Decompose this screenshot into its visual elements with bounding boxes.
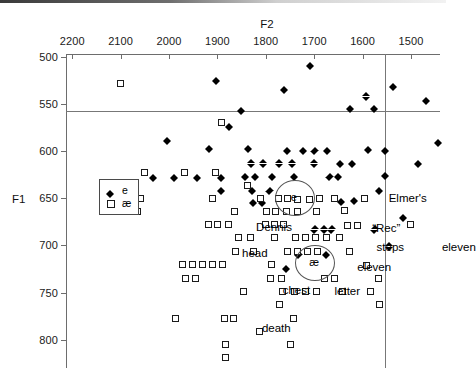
data-point-e (328, 221, 336, 229)
annotation-label: “Rec” (372, 222, 400, 234)
data-point-ae (292, 234, 299, 241)
data-point-ae (276, 301, 283, 308)
data-point-e (241, 169, 249, 177)
x-axis-tick-label: 1900 (205, 35, 230, 47)
data-point-e (299, 143, 307, 151)
data-point-ae (212, 169, 219, 176)
legend-item-label: æ (122, 198, 131, 209)
data-point-e (326, 169, 334, 177)
annotation-label: eleven (357, 261, 391, 273)
data-point-ae (287, 341, 294, 348)
y-axis-tick-label: 800 (26, 334, 58, 346)
data-point-e (268, 169, 276, 177)
cluster-label-e: e (291, 191, 297, 203)
y-axis-tick (61, 245, 66, 246)
data-point-e (364, 142, 372, 150)
y-axis-tick-label: 650 (26, 192, 58, 204)
data-point-ae (341, 207, 348, 214)
data-point-ae (141, 169, 148, 176)
data-point-e (266, 183, 274, 191)
data-point-ae (376, 301, 383, 308)
data-point-ae (189, 261, 196, 268)
data-point-ae (375, 275, 382, 282)
data-point-e (310, 155, 318, 163)
annotation-label: Dennis (256, 221, 292, 233)
data-point-e (247, 155, 255, 163)
x-axis-tick-label: 1600 (350, 35, 375, 47)
data-point-e (414, 156, 422, 164)
data-point-e (362, 88, 370, 96)
data-point-ae (267, 275, 274, 282)
data-point-ae (181, 169, 188, 176)
data-point-ae (313, 208, 320, 215)
legend-item: æ (106, 197, 131, 210)
data-point-ae (346, 248, 353, 255)
x-axis-tick (72, 54, 73, 59)
data-point-e (381, 143, 389, 151)
data-point-e (350, 193, 358, 201)
data-point-ae (344, 222, 351, 229)
legend-diamond-icon (106, 186, 115, 195)
x-axis-tick-label: 1800 (253, 35, 278, 47)
x-axis-tick (217, 54, 218, 59)
data-point-ae (222, 341, 229, 348)
x-axis-tick-label: 2000 (157, 35, 182, 47)
data-point-e (244, 141, 252, 149)
data-point-e (288, 155, 296, 163)
y-axis-tick-label: 700 (26, 239, 58, 251)
data-point-ae (199, 261, 206, 268)
data-point-ae (192, 275, 199, 282)
x-axis-tick-label: 2200 (60, 35, 85, 47)
data-point-e (389, 79, 397, 87)
data-point-e (346, 101, 354, 109)
data-point-ae (263, 208, 270, 215)
data-point-e (149, 170, 157, 178)
x-axis-tick (363, 54, 364, 59)
x-axis-tick (169, 54, 170, 59)
data-point-ae (230, 315, 237, 322)
x-axis-tick (314, 54, 315, 59)
legend-box: eæ (99, 179, 139, 215)
data-point-e (334, 169, 342, 177)
data-point-ae (231, 208, 238, 215)
data-point-e (163, 133, 171, 141)
y-axis-tick-label: 550 (26, 98, 58, 110)
data-point-ae (336, 234, 343, 241)
data-point-e (275, 155, 283, 163)
data-point-e (422, 93, 430, 101)
data-point-ae (247, 234, 254, 241)
data-point-ae (172, 315, 179, 322)
data-point-ae (218, 119, 225, 126)
y-axis-tick (61, 198, 66, 199)
data-point-ae (367, 288, 374, 295)
data-point-e (212, 73, 220, 81)
data-point-ae (244, 182, 251, 189)
data-point-e (348, 156, 356, 164)
y-axis-tick (61, 340, 66, 341)
y-axis-tick-label: 500 (26, 51, 58, 63)
annotation-label: death (262, 322, 291, 334)
legend-square-icon (106, 199, 115, 208)
x-axis-tick (411, 54, 412, 59)
x-axis-tick (121, 54, 122, 59)
data-point-ae (271, 234, 278, 241)
data-point-ae (312, 234, 319, 241)
x-axis-tick (266, 54, 267, 59)
cluster-label-ae: æ (309, 256, 319, 268)
x-axis-title: F2 (260, 18, 273, 30)
data-point-ae (313, 288, 320, 295)
legend-item: e (106, 184, 131, 197)
data-point-e (306, 58, 314, 66)
annotation-label: head (242, 247, 268, 259)
data-point-e (399, 210, 407, 218)
data-point-ae (222, 354, 229, 361)
data-point-e (381, 168, 389, 176)
x-axis-tick-label: 1500 (399, 35, 424, 47)
data-point-e (259, 155, 267, 163)
y-axis-tick (61, 293, 66, 294)
data-point-e (193, 170, 201, 178)
annotation-label: Elmer's (389, 192, 427, 204)
annotation-label: eleven (442, 241, 476, 253)
data-point-e (237, 103, 245, 111)
